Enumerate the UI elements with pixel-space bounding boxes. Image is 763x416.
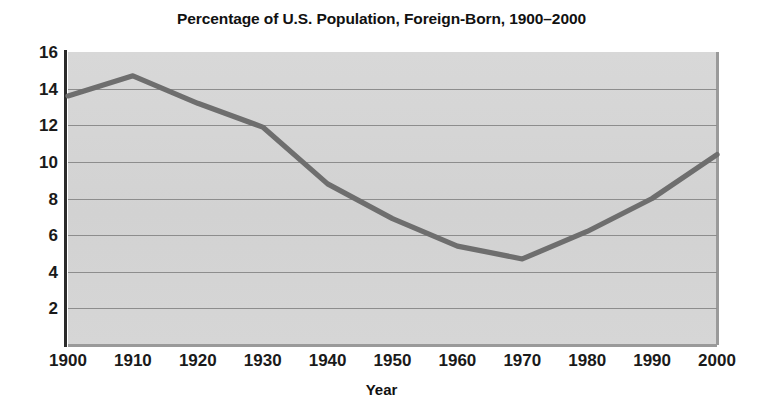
chart-figure: Percentage of U.S. Population, Foreign-B… (0, 0, 763, 416)
foreign-born-line (68, 76, 717, 259)
x-tick-label: 1930 (228, 352, 298, 369)
y-tick-label: 14 (18, 81, 58, 98)
x-tick-label: 1960 (422, 352, 492, 369)
x-tick-label: 1910 (98, 352, 168, 369)
y-tick-label: 6 (18, 227, 58, 244)
y-tick-label: 8 (18, 191, 58, 208)
y-tick-label: 10 (18, 154, 58, 171)
y-tick-label: 16 (18, 44, 58, 61)
y-tick-label: 2 (18, 300, 58, 317)
x-tick-label: 1900 (33, 352, 103, 369)
plot-area (68, 52, 717, 345)
x-tick-label: 1970 (487, 352, 557, 369)
x-tick-label: 1940 (293, 352, 363, 369)
x-tick-label: 1950 (358, 352, 428, 369)
x-tick-label: 1920 (163, 352, 233, 369)
data-line-series (68, 52, 717, 345)
chart-title: Percentage of U.S. Population, Foreign-B… (0, 10, 763, 28)
y-tick-label: 12 (18, 117, 58, 134)
x-axis-title: Year (0, 381, 763, 398)
x-tick-label: 2000 (682, 352, 752, 369)
x-tick-label: 1990 (617, 352, 687, 369)
y-tick-label: 4 (18, 264, 58, 281)
x-tick-label: 1980 (552, 352, 622, 369)
